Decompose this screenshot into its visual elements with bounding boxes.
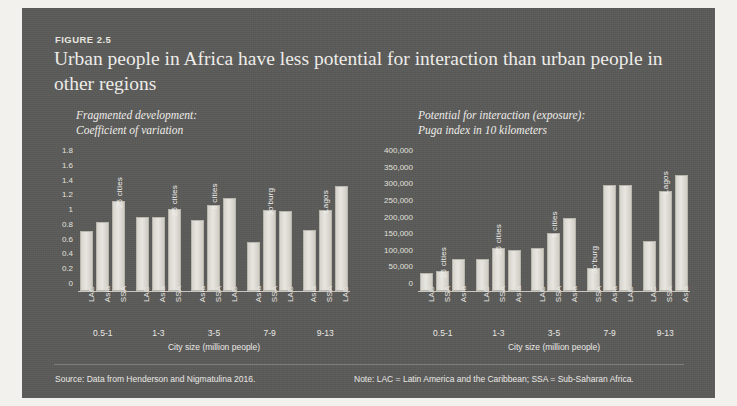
category-label: 9-13	[300, 328, 350, 338]
bar[interactable]	[675, 175, 688, 291]
bar[interactable]	[619, 185, 632, 291]
bar[interactable]	[191, 220, 204, 291]
plot-area-right: 050,000100,000150,000200,000250,000300,0…	[418, 158, 690, 292]
x-tick-label: SSA	[436, 292, 449, 326]
x-axis-title-right: City size (million people)	[418, 342, 690, 352]
x-label-group: SSAAsiaLAC	[585, 292, 635, 326]
bar-wrapper	[531, 158, 544, 291]
bar[interactable]	[531, 248, 544, 291]
bar-wrapper	[508, 158, 521, 291]
bar[interactable]	[223, 198, 236, 291]
x-tick-label-text: LAC	[87, 286, 96, 302]
bar-wrapper	[96, 158, 109, 291]
bar[interactable]	[643, 241, 656, 291]
bar-wrapper	[80, 158, 93, 291]
bar[interactable]	[152, 217, 165, 291]
bar-annotation: Jo'burg	[265, 188, 274, 215]
bar[interactable]	[96, 222, 109, 291]
y-tick-label: 150,000	[384, 229, 413, 238]
x-tick-label-text: SSA	[665, 286, 674, 303]
bar[interactable]	[80, 231, 93, 291]
x-tick-label-text: SSA	[498, 286, 507, 303]
bar[interactable]	[335, 186, 348, 291]
x-label-group: AsiaSSALAC	[300, 292, 350, 326]
bar-wrapper: 6 cities	[547, 158, 560, 291]
bar[interactable]	[279, 211, 292, 291]
x-label-group: LACSSAAsia	[640, 292, 690, 326]
bar-wrapper	[136, 158, 149, 291]
category-label: 0.5-1	[78, 328, 128, 338]
bar[interactable]	[659, 191, 672, 291]
x-tick-label-text: SSA	[325, 286, 334, 303]
bar-wrapper: 25 cities	[492, 158, 505, 291]
x-tick-label-text: LAC	[341, 286, 350, 302]
bar-annotation: 25 cities	[494, 224, 503, 255]
x-tick-label-text: Asia	[610, 286, 619, 302]
chart-panel-right: Potential for interaction (exposure): Pu…	[394, 108, 704, 358]
category-labels-right: 0.5-11-33-57-99-13	[418, 328, 690, 338]
x-label-group: LACSSAAsia	[418, 292, 468, 326]
x-tick-label: Asia	[508, 292, 521, 326]
bar[interactable]	[247, 242, 260, 292]
x-tick-label-text: LAC	[286, 286, 295, 302]
x-tick-label: LAC	[619, 292, 632, 326]
bar-annotation: Lagos	[321, 190, 330, 213]
x-label-group: LACSSAAsia	[474, 292, 524, 326]
category-label: 7-9	[245, 328, 295, 338]
x-label-group: LACAsiaSSA	[78, 292, 128, 326]
bar[interactable]	[563, 218, 576, 291]
plot-area-left: 00.20.40.60.811.21.41.61.8 25 cities25 c…	[78, 158, 350, 292]
x-label-group: LACAsiaSSA	[134, 292, 184, 326]
bar[interactable]	[319, 210, 332, 291]
x-label-group: LACSSAAsia	[529, 292, 579, 326]
y-tick-label: 100,000	[384, 245, 413, 254]
figure-footer: Source: Data from Henderson and Nigmatul…	[22, 364, 715, 398]
bar[interactable]	[603, 185, 616, 291]
y-tick-label: 1.8	[62, 146, 73, 155]
x-axis-title-left: City size (million people)	[78, 342, 350, 352]
x-tick-label: LAC	[335, 292, 348, 326]
x-tick-label-text: Asia	[514, 286, 523, 302]
x-tick-label: SSA	[547, 292, 560, 326]
x-tick-label: LAC	[80, 292, 93, 326]
footer-divider	[54, 364, 684, 365]
x-label-group: AsiaSSALAC	[189, 292, 239, 326]
x-tick-label: LAC	[643, 292, 656, 326]
x-tick-label: LAC	[476, 292, 489, 326]
bar[interactable]	[207, 205, 220, 291]
x-tick-label: Asia	[152, 292, 165, 326]
bar-group: 25 cities	[78, 158, 128, 291]
bar[interactable]	[547, 233, 560, 291]
x-tick-label-text: LAC	[482, 286, 491, 302]
y-tick-label: 300,000	[384, 179, 413, 188]
x-tick-labels-left: LACAsiaSSALACAsiaSSAAsiaSSALACAsiaSSALAC…	[78, 292, 350, 326]
bar[interactable]	[263, 210, 276, 291]
bar[interactable]	[168, 209, 181, 291]
x-tick-label-text: LAC	[427, 286, 436, 302]
category-label: 3-5	[189, 328, 239, 338]
bar-wrapper	[152, 158, 165, 291]
y-tick-label: 50,000	[389, 262, 413, 271]
bar-wrapper	[476, 158, 489, 291]
y-tick-label: 0.6	[62, 234, 73, 243]
bar-group: Jo'burg	[585, 158, 635, 291]
x-tick-label: SSA	[319, 292, 332, 326]
bar-wrapper	[303, 158, 316, 291]
bar-wrapper	[619, 158, 632, 291]
bar[interactable]	[136, 217, 149, 291]
category-label: 3-5	[529, 328, 579, 338]
x-tick-label-text: Asia	[309, 286, 318, 302]
x-tick-label: Asia	[247, 292, 260, 326]
x-tick-label-text: LAC	[649, 286, 658, 302]
y-tick-label: 250,000	[384, 195, 413, 204]
bar-group: 6 cities	[529, 158, 579, 291]
x-tick-label: Asia	[675, 292, 688, 326]
y-tick-label: 0.4	[62, 249, 73, 258]
bar[interactable]	[112, 201, 125, 291]
bar[interactable]	[303, 230, 316, 291]
bar-wrapper: 25 cities	[168, 158, 181, 291]
bar-wrapper: 6 cities	[207, 158, 220, 291]
bar-annotation: 25 cities	[170, 185, 179, 216]
y-tick-label: 0	[409, 279, 413, 288]
category-label: 1-3	[474, 328, 524, 338]
